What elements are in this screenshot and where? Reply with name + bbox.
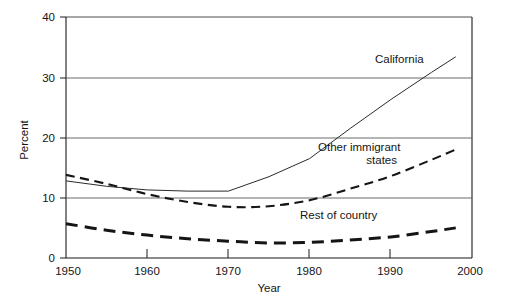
series-label-rest-of-country: Rest of country xyxy=(300,209,378,221)
series-label-other-immigrant-line1: Other immigrant xyxy=(318,141,401,153)
y-tick-label-0: 0 xyxy=(49,252,55,264)
series-label-other-immigrant-line2: states xyxy=(366,154,397,166)
x-tick-label-1960: 1960 xyxy=(134,265,160,277)
chart-container: 0 10 20 30 40 1950 1960 1970 1980 1990 2… xyxy=(0,0,509,297)
series-line-rest-of-country xyxy=(66,224,456,243)
x-tick-label-2000: 2000 xyxy=(457,265,483,277)
x-axis-ticks xyxy=(147,249,390,258)
y-tick-label-20: 20 xyxy=(42,132,55,144)
series-line-other-immigrant-states xyxy=(66,150,456,208)
line-chart: 0 10 20 30 40 1950 1960 1970 1980 1990 2… xyxy=(0,0,509,297)
gridlines-horizontal xyxy=(66,78,472,198)
y-axis-title: Percent xyxy=(18,119,30,159)
x-tick-label-1950: 1950 xyxy=(55,265,81,277)
series-label-california: California xyxy=(375,53,424,65)
x-tick-label-1970: 1970 xyxy=(215,265,241,277)
series-line-california xyxy=(66,57,456,191)
x-tick-label-1990: 1990 xyxy=(377,265,403,277)
y-tick-label-40: 40 xyxy=(42,11,55,23)
x-tick-label-1980: 1980 xyxy=(296,265,322,277)
y-tick-label-10: 10 xyxy=(42,192,55,204)
y-tick-label-30: 30 xyxy=(42,72,55,84)
x-axis-title: Year xyxy=(257,282,280,294)
y-axis-ticks xyxy=(60,17,66,258)
